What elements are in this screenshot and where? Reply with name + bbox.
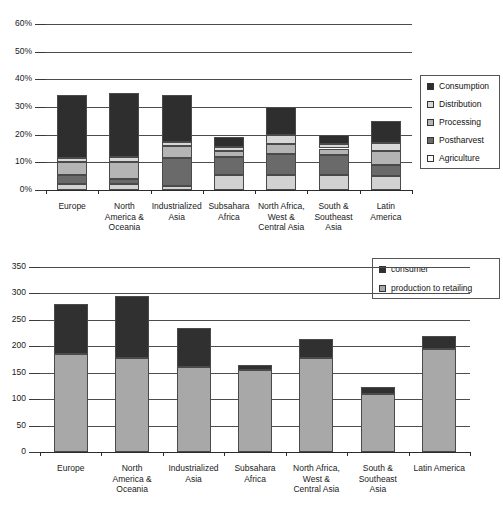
x-axis-category-label: Subsahara Africa [199, 201, 259, 222]
bar-segment-postharvest [57, 175, 87, 185]
y-axis-tick-label: 100 [0, 394, 26, 403]
bar-segment-postharvest [214, 157, 244, 175]
x-tick-mark [98, 190, 99, 194]
legend-swatch-icon [427, 119, 434, 126]
bar-segment-agriculture [371, 176, 401, 190]
bar-segment-production-to-retailing [361, 394, 395, 452]
y-tick-mark [29, 452, 40, 453]
x-tick-mark [40, 452, 41, 456]
y-tick-mark [35, 52, 46, 53]
bar-segment-processing [109, 162, 139, 179]
bar-segment-distribution [266, 135, 296, 145]
y-tick-mark [29, 399, 40, 400]
bar-segment-distribution [109, 157, 139, 163]
y-axis-tick-label: 0% [0, 185, 32, 194]
bar-5 [266, 24, 296, 190]
y-tick-mark [35, 190, 46, 191]
legend-swatch-icon [427, 155, 434, 162]
x-tick-mark [412, 190, 413, 194]
y-tick-mark [29, 267, 40, 268]
bar-segment-consumer [177, 328, 211, 368]
x-axis-category-label: Subsahara Africa [220, 463, 289, 484]
legend-item: Processing [427, 117, 493, 127]
bar-5 [299, 267, 333, 452]
bar-segment-consumer [299, 339, 333, 358]
legend-item-label: Consumption [439, 81, 489, 91]
y-tick-mark [35, 79, 46, 80]
legend-item-label: Postharvest [439, 135, 484, 145]
bar-segment-consumption [371, 121, 401, 143]
x-axis-category-label: North Africa, West & Central Asia [282, 463, 351, 495]
x-tick-mark [163, 452, 164, 456]
x-axis-category-label: Europe [36, 463, 105, 474]
legend-item: Agriculture [427, 153, 493, 163]
legend-item-label: Processing [439, 117, 481, 127]
bar-segment-postharvest [266, 154, 296, 175]
y-tick-mark [29, 293, 40, 294]
bar-segment-distribution [57, 158, 87, 162]
x-axis-category-label: Latin America [405, 463, 474, 474]
bar-segment-processing [319, 149, 349, 156]
bar-segment-consumer [361, 387, 395, 394]
x-axis-category-label: North America & Oceania [94, 201, 154, 233]
y-tick-mark [29, 346, 40, 347]
bar-segment-consumption [162, 95, 192, 142]
legend-item: Distribution [427, 99, 493, 109]
bar-segment-production-to-retailing [177, 367, 211, 452]
y-axis-tick-label: 0 [0, 447, 26, 456]
bar-6 [319, 24, 349, 190]
y-axis-tick-label: 200 [0, 341, 26, 350]
bar-7 [422, 267, 456, 452]
legend-swatch-icon [427, 137, 434, 144]
bar-segment-consumption [57, 95, 87, 159]
y-axis-tick-label: 40% [0, 74, 32, 83]
y-tick-mark [35, 24, 46, 25]
bar-segment-distribution [319, 144, 349, 148]
y-axis-tick-label: 50 [0, 421, 26, 430]
x-axis-category-label: Industrialized Asia [147, 201, 207, 222]
x-axis-category-label: Industrialized Asia [159, 463, 228, 484]
y-axis-tick-label: 300 [0, 288, 26, 297]
bar-segment-agriculture [266, 175, 296, 190]
bar-segment-production-to-retailing [115, 358, 149, 452]
bar-2 [109, 24, 139, 190]
bar-segment-production-to-retailing [299, 358, 333, 452]
x-tick-mark [470, 452, 471, 456]
x-axis-category-label: North America & Oceania [97, 463, 166, 495]
bar-segment-processing [162, 146, 192, 158]
bar-4 [238, 267, 272, 452]
x-tick-mark [151, 190, 152, 194]
legend-item-label: Agriculture [439, 153, 480, 163]
x-tick-mark [224, 452, 225, 456]
bar-segment-consumer [54, 304, 88, 354]
bar-segment-agriculture [162, 186, 192, 190]
y-axis-tick-label: 50% [0, 47, 32, 56]
x-tick-mark [101, 452, 102, 456]
bar-6 [361, 267, 395, 452]
bar-3 [177, 267, 211, 452]
y-axis-tick-label: 30% [0, 102, 32, 111]
legend-swatch-icon [427, 83, 434, 90]
bar-segment-distribution [214, 147, 244, 151]
x-tick-mark [46, 190, 47, 194]
y-axis-tick-label: 150 [0, 368, 26, 377]
bar-segment-postharvest [162, 158, 192, 186]
x-axis-category-label: North Africa, West & Central Asia [251, 201, 311, 233]
legend-top: ConsumptionDistributionProcessingPosthar… [420, 75, 500, 169]
x-tick-mark [360, 190, 361, 194]
bar-segment-consumer [238, 365, 272, 370]
y-axis-tick-label: 20% [0, 130, 32, 139]
bar-segment-consumption [214, 137, 244, 147]
bar-segment-distribution [162, 142, 192, 146]
bar-1 [57, 24, 87, 190]
bar-segment-distribution [371, 143, 401, 151]
y-axis-tick-label: 60% [0, 19, 32, 28]
x-axis-category-label: South & Southeast Asia [343, 463, 412, 495]
y-axis-tick-label: 350 [0, 262, 26, 271]
bar-segment-production-to-retailing [238, 370, 272, 452]
x-tick-mark [307, 190, 308, 194]
y-tick-mark [35, 107, 46, 108]
x-tick-mark [255, 190, 256, 194]
y-tick-mark [35, 135, 46, 136]
y-tick-mark [35, 162, 46, 163]
